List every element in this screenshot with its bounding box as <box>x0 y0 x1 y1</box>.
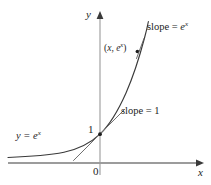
slope-at-point-prefix: slope = <box>147 21 180 32</box>
curve-equation-exponent: x <box>38 129 41 137</box>
curve-point-coordinate-label: (x, ex) <box>104 44 126 54</box>
slope-at-intercept-label: slope = 1 <box>121 106 160 117</box>
curve-equation-prefix: y = <box>16 130 33 141</box>
point-close-paren: ) <box>123 43 126 53</box>
point-leader-tick <box>137 39 145 59</box>
y-axis-label: y <box>86 9 91 20</box>
origin-label: 0 <box>93 166 99 177</box>
slope-at-point-label: slope = ex <box>147 22 188 33</box>
slope-at-point-exponent: x <box>185 20 188 28</box>
x-axis-label: x <box>198 167 203 178</box>
x-axis <box>8 159 204 166</box>
y-tick-label-one: 1 <box>88 124 94 135</box>
curve-equation-label: y = ex <box>16 131 41 142</box>
exponential-function-figure: y x 0 1 slope = ex (x, ex) slope = 1 y =… <box>0 0 211 185</box>
y-intercept-point-marker <box>98 132 102 136</box>
y-axis <box>97 11 104 175</box>
y-axis-arrowhead <box>97 11 104 19</box>
